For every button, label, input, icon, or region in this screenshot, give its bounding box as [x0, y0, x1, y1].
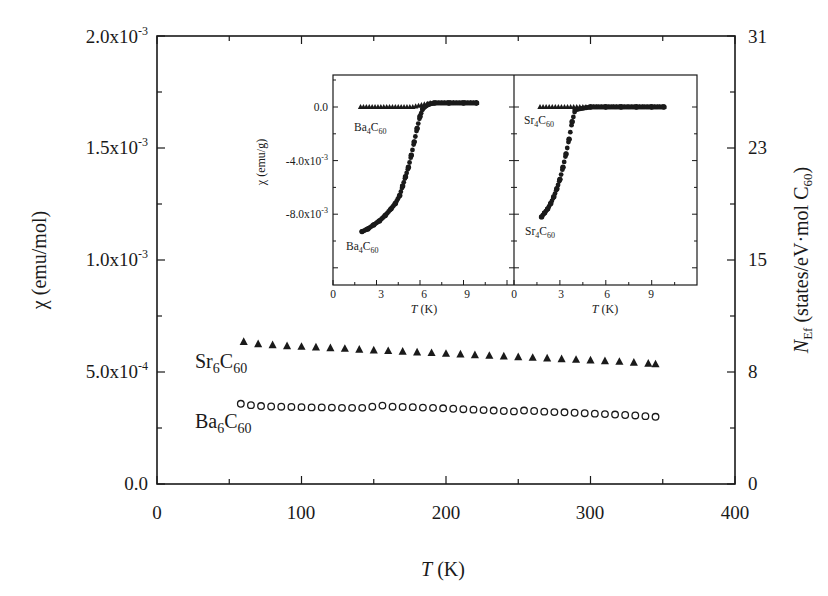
data-point-triangle [240, 337, 248, 345]
inset-right-x-axis-title: T (K) [592, 302, 618, 316]
data-point-open-circle [329, 404, 336, 411]
data-point-open-circle [318, 404, 325, 411]
data-point-filled-circle [412, 139, 417, 144]
data-point-open-circle [470, 406, 477, 413]
data-point-triangle [442, 349, 450, 357]
data-point-triangle [615, 357, 623, 365]
main-data-points [238, 337, 660, 420]
data-point-open-circle [571, 409, 578, 416]
data-point-filled-circle [571, 115, 576, 120]
x-tick-label: 200 [432, 502, 461, 523]
data-point-triangle [341, 344, 349, 352]
data-point-open-circle [258, 403, 265, 410]
data-point-open-circle [612, 411, 619, 418]
data-point-open-circle [592, 410, 599, 417]
data-point-triangle [529, 353, 537, 361]
data-point-open-circle [531, 408, 538, 415]
data-point-triangle [370, 346, 378, 354]
data-point-triangle [384, 346, 392, 354]
inset-x-tick-label: 0 [511, 288, 517, 300]
inset-x-tick-label: 6 [604, 288, 610, 300]
data-point-filled-circle [415, 126, 420, 131]
data-point-triangle [630, 358, 638, 366]
data-point-triangle [500, 352, 508, 360]
data-point-filled-circle [413, 134, 418, 139]
data-point-open-circle [642, 413, 649, 420]
data-point-triangle [399, 347, 407, 355]
data-point-open-circle [389, 403, 396, 410]
inset-y-tick-label: -4.0x10-3 [286, 153, 328, 167]
inset-plot: 0.0 -4.0x10-3 -8.0x10-3 χ (emu/g) 0 3 6 … [254, 75, 697, 316]
data-point-open-circle [288, 404, 295, 411]
data-point-filled-circle [564, 152, 569, 157]
data-point-open-circle [632, 412, 639, 419]
data-point-triangle [283, 342, 291, 350]
data-point-open-circle [379, 402, 386, 409]
data-point-triangle [601, 357, 609, 365]
data-point-open-circle [298, 404, 305, 411]
inset-y-axis-title: χ (emu/g) [254, 139, 268, 186]
data-point-open-circle [430, 405, 437, 412]
series-label-sr6c60: Sr6C60 [195, 350, 247, 376]
data-point-open-circle [359, 405, 366, 412]
data-point-triangle [558, 355, 566, 363]
data-point-open-circle [409, 404, 416, 411]
data-point-triangle [586, 356, 594, 364]
data-point-open-circle [248, 402, 255, 409]
y-tick-label: 1.5x10-3 [86, 135, 148, 158]
inset-x-tick-label: 6 [421, 288, 427, 300]
data-point-open-circle [460, 406, 467, 413]
x-tick-label: 300 [576, 502, 605, 523]
data-point-filled-circle [410, 147, 415, 152]
data-point-open-circle [238, 401, 245, 408]
data-point-open-circle [349, 405, 356, 412]
data-point-filled-circle [558, 177, 563, 182]
data-point-open-circle [501, 408, 508, 415]
data-point-triangle [543, 354, 551, 362]
data-point-open-circle [339, 405, 346, 412]
data-point-open-circle [602, 411, 609, 418]
y-tick-label: 0.0 [124, 473, 148, 494]
x-axis-title: T (K) [421, 558, 465, 581]
data-point-triangle [269, 341, 277, 349]
data-point-filled-circle [559, 172, 564, 177]
data-point-triangle [471, 350, 479, 358]
data-point-open-circle [541, 408, 548, 415]
data-point-open-circle [308, 404, 315, 411]
y-tick-label: 1.0x10-3 [86, 247, 148, 270]
data-point-open-circle [561, 409, 568, 416]
x-tick-label: 100 [287, 502, 316, 523]
data-point-triangle [644, 359, 652, 367]
data-point-filled-circle [562, 160, 567, 165]
data-point-open-circle [622, 412, 629, 419]
data-point-filled-circle [561, 165, 566, 170]
data-point-triangle [572, 355, 580, 363]
y2-tick-label: 23 [748, 137, 767, 158]
inset-x-tick-label: 9 [648, 288, 654, 300]
data-point-open-circle [511, 408, 518, 415]
data-point-filled-circle [565, 146, 570, 151]
data-point-triangle [297, 342, 305, 350]
inset-left-x-axis-title: T (K) [411, 302, 437, 316]
y2-tick-label: 31 [748, 26, 767, 47]
data-point-filled-circle [570, 119, 575, 124]
data-point-triangle [651, 360, 659, 368]
x-tick-label: 400 [721, 502, 750, 523]
data-point-open-circle [652, 414, 659, 421]
data-point-open-circle [278, 403, 285, 410]
data-point-filled-circle [406, 165, 411, 170]
data-point-filled-circle [407, 160, 412, 165]
data-point-open-circle [369, 403, 376, 410]
susceptibility-chart: 0.0 5.0x10-4 1.0x10-3 1.5x10-3 2.0x10-3 … [0, 0, 828, 596]
data-point-open-circle [521, 407, 528, 414]
data-point-triangle [355, 345, 363, 353]
data-point-open-circle [551, 409, 558, 416]
data-point-triangle [485, 351, 493, 359]
y2-tick-label: 15 [748, 249, 767, 270]
inset-y-tick-label: 0.0 [314, 101, 329, 113]
inset-y-tick-label: -8.0x10-3 [286, 206, 328, 220]
data-point-triangle [312, 343, 320, 351]
y-tick-label: 5.0x10-4 [86, 359, 148, 382]
data-point-triangle [326, 344, 334, 352]
data-point-open-circle [399, 404, 406, 411]
